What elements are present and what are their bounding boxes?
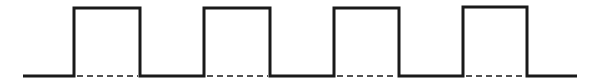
waveform-line — [23, 7, 577, 76]
square-wave-diagram — [0, 0, 606, 84]
square-wave-svg — [0, 0, 606, 84]
